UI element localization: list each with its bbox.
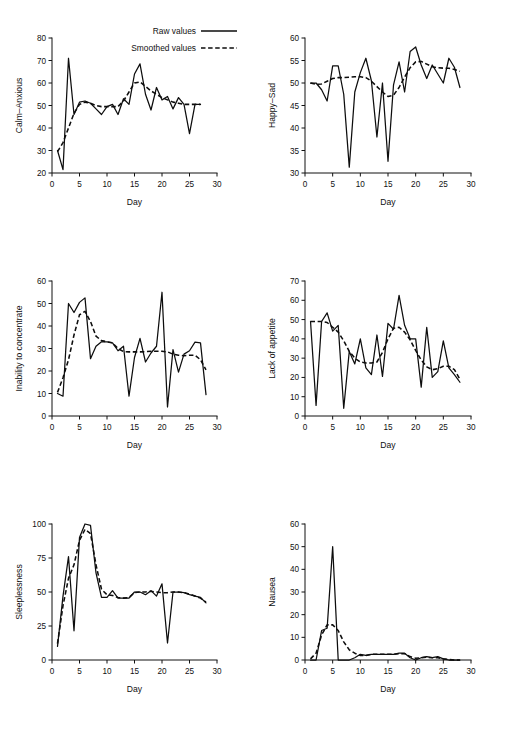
y-axis-ticks: 30354045505560 xyxy=(290,34,305,178)
x-tick-label: 20 xyxy=(157,180,167,189)
y-axis-ticks: 0102030405060 xyxy=(37,277,52,421)
series-raw-values xyxy=(58,524,207,646)
y-tick-label: 80 xyxy=(37,34,47,43)
axis-spine xyxy=(52,281,217,416)
y-tick-label: 20 xyxy=(290,373,300,382)
x-tick-label: 20 xyxy=(157,423,167,432)
x-tick-label: 25 xyxy=(439,423,449,432)
x-tick-label: 30 xyxy=(466,180,476,189)
y-axis-title: Happy–Sad xyxy=(267,83,277,128)
y-axis-title: Calm–Anxious xyxy=(14,78,24,133)
y-tick-label: 30 xyxy=(37,147,47,156)
y-tick-label: 50 xyxy=(37,588,47,597)
y-axis-title: Inability to concentrate xyxy=(14,305,24,391)
x-tick-label: 5 xyxy=(77,667,82,676)
y-tick-label: 50 xyxy=(290,79,300,88)
x-tick-label: 10 xyxy=(356,667,366,676)
x-tick-label: 10 xyxy=(102,423,112,432)
y-tick-label: 0 xyxy=(294,412,299,421)
y-axis-title: Sleeplessness xyxy=(14,564,24,619)
legend-label-1: Raw values xyxy=(153,26,196,36)
y-tick-label: 30 xyxy=(290,354,300,363)
y-tick-label: 70 xyxy=(37,57,47,66)
series-smoothed-values xyxy=(58,529,207,643)
x-tick-label: 0 xyxy=(50,667,55,676)
x-tick-label: 0 xyxy=(303,667,308,676)
y-tick-label: 0 xyxy=(41,412,46,421)
y-tick-label: 10 xyxy=(37,390,47,399)
y-tick-label: 60 xyxy=(290,34,300,43)
x-tick-label: 5 xyxy=(77,423,82,432)
x-tick-label: 15 xyxy=(383,667,393,676)
y-tick-label: 45 xyxy=(290,102,300,111)
x-tick-label: 0 xyxy=(50,423,55,432)
x-tick-label: 25 xyxy=(185,180,195,189)
y-tick-label: 0 xyxy=(294,656,299,665)
x-axis-ticks: 051015202530 xyxy=(50,173,222,189)
y-axis-ticks: 0255075100 xyxy=(32,520,52,665)
x-tick-label: 10 xyxy=(102,667,112,676)
x-tick-label: 15 xyxy=(383,180,393,189)
y-tick-label: 0 xyxy=(41,656,46,665)
y-tick-label: 60 xyxy=(37,79,47,88)
chart-panel-3: 0102030405060051015202530DayInability to… xyxy=(0,243,253,486)
series-raw-values xyxy=(311,295,460,408)
y-tick-label: 50 xyxy=(290,543,300,552)
x-tick-label: 10 xyxy=(102,180,112,189)
x-axis-ticks: 051015202530 xyxy=(303,416,476,432)
x-axis-ticks: 051015202530 xyxy=(303,660,476,676)
y-tick-label: 70 xyxy=(290,277,300,286)
x-tick-label: 30 xyxy=(466,667,476,676)
x-tick-label: 15 xyxy=(130,180,140,189)
x-tick-label: 5 xyxy=(330,180,335,189)
chart-panel-1: 20304050607080051015202530DayCalm–Anxiou… xyxy=(0,0,253,243)
series-smoothed-values xyxy=(58,82,201,152)
y-tick-label: 60 xyxy=(37,277,47,286)
y-tick-label: 20 xyxy=(37,169,47,178)
x-tick-label: 5 xyxy=(330,423,335,432)
y-axis-title: Lack of appetite xyxy=(267,318,277,379)
y-tick-label: 10 xyxy=(290,393,300,402)
x-tick-label: 25 xyxy=(185,423,195,432)
y-tick-label: 50 xyxy=(37,102,47,111)
legend-label-2: Smoothed values xyxy=(131,43,196,53)
x-tick-label: 25 xyxy=(439,667,449,676)
x-tick-label: 5 xyxy=(77,180,82,189)
y-tick-label: 100 xyxy=(32,520,46,529)
x-tick-label: 10 xyxy=(356,180,366,189)
y-tick-label: 20 xyxy=(37,367,47,376)
x-axis-ticks: 051015202530 xyxy=(303,173,476,189)
multi-panel-figure: 20304050607080051015202530DayCalm–Anxiou… xyxy=(0,0,507,730)
chart-panel-2: 30354045505560051015202530DayHappy–Sad xyxy=(253,0,507,243)
x-tick-label: 20 xyxy=(411,667,421,676)
x-tick-label: 20 xyxy=(157,667,167,676)
x-tick-label: 25 xyxy=(185,667,195,676)
y-tick-label: 75 xyxy=(37,554,47,563)
x-tick-label: 30 xyxy=(212,180,222,189)
axis-spine xyxy=(305,281,471,416)
x-tick-label: 0 xyxy=(50,180,55,189)
x-tick-label: 30 xyxy=(212,667,222,676)
y-tick-label: 40 xyxy=(290,565,300,574)
x-tick-label: 30 xyxy=(466,423,476,432)
x-axis-title: Day xyxy=(380,684,396,694)
x-axis-ticks: 051015202530 xyxy=(50,660,222,676)
x-tick-label: 15 xyxy=(130,423,140,432)
x-axis-ticks: 051015202530 xyxy=(50,416,222,432)
chart-panel-6: 0102030405060051015202530DayNausea xyxy=(253,486,507,730)
series-raw-values xyxy=(58,58,201,169)
y-tick-label: 25 xyxy=(37,622,47,631)
y-tick-label: 40 xyxy=(290,124,300,133)
y-tick-label: 20 xyxy=(290,611,300,620)
y-tick-label: 40 xyxy=(37,322,47,331)
y-axis-ticks: 20304050607080 xyxy=(37,34,52,178)
y-axis-ticks: 010203040506070 xyxy=(290,277,305,421)
chart-panel-5: 0255075100051015202530DaySleeplessness xyxy=(0,486,253,730)
y-tick-label: 50 xyxy=(290,316,300,325)
x-tick-label: 15 xyxy=(383,423,393,432)
x-tick-label: 10 xyxy=(356,423,366,432)
series-raw-values xyxy=(311,547,460,660)
y-tick-label: 30 xyxy=(290,169,300,178)
chart-panel-4: 010203040506070051015202530DayLack of ap… xyxy=(253,243,507,486)
y-tick-label: 30 xyxy=(37,345,47,354)
